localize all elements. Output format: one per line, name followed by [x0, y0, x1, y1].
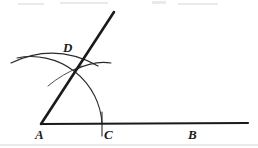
scan-artifact	[152, 1, 166, 4]
vertex-label-D: D	[63, 41, 72, 54]
scan-artifact	[60, 2, 108, 4]
vertex-label-C: C	[104, 128, 113, 141]
geometry-figure: A C B D	[0, 0, 258, 148]
construction-canvas	[0, 0, 258, 148]
scan-artifact	[18, 3, 44, 5]
line-segment-AB	[41, 123, 248, 124]
scan-artifact	[0, 144, 258, 146]
vertex-label-A: A	[35, 128, 44, 141]
vertex-label-B: B	[188, 128, 197, 141]
scan-artifact	[178, 3, 218, 5]
ray-AD	[41, 12, 114, 124]
compass-arc-centered-at-A	[17, 57, 102, 124]
